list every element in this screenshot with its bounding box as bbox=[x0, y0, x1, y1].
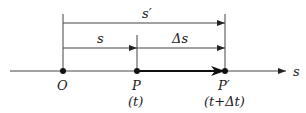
point-o bbox=[60, 68, 66, 74]
bracket-s: s bbox=[63, 31, 137, 48]
axis-label: s bbox=[293, 64, 300, 79]
s-prime-label: s′ bbox=[142, 6, 152, 21]
label-p: P bbox=[131, 78, 141, 93]
point-p-prime bbox=[222, 68, 228, 74]
delta-s-label: Δs bbox=[171, 31, 188, 46]
displacement-diagram: s s′ s Δs O P (t) P′ (t+Δt) bbox=[0, 0, 306, 113]
label-p-prime: P′ bbox=[217, 78, 230, 93]
label-p-prime-time: (t+Δt) bbox=[204, 94, 245, 109]
bracket-s-prime: s′ bbox=[63, 6, 225, 23]
label-p-time: (t) bbox=[128, 94, 143, 109]
s-label: s bbox=[97, 31, 104, 46]
point-p bbox=[134, 68, 140, 74]
label-o: O bbox=[57, 78, 68, 93]
bracket-delta-s: Δs bbox=[137, 31, 225, 48]
